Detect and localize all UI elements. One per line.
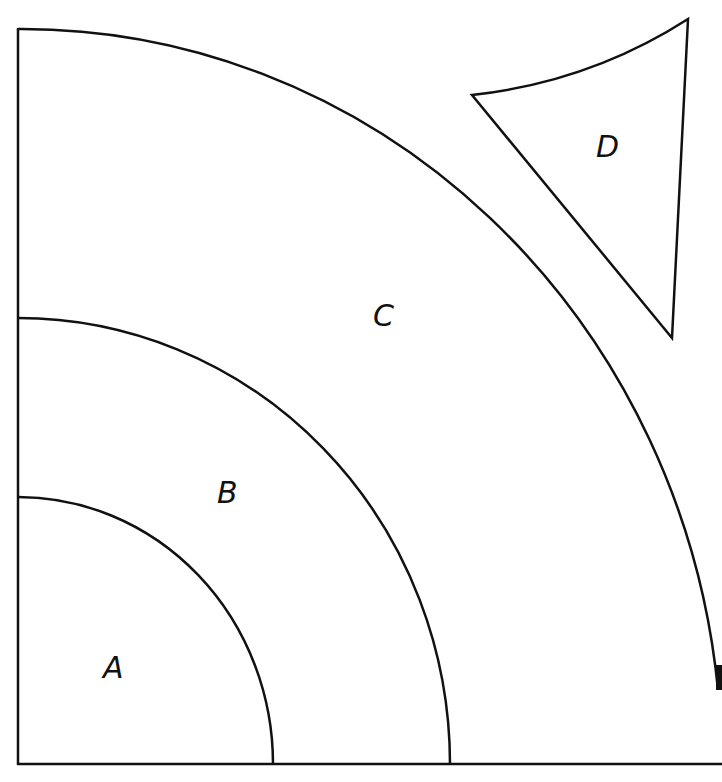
label-b: B [217, 475, 238, 510]
arc-a [18, 497, 273, 764]
edge-mark [716, 665, 722, 690]
region-d-shape [472, 19, 688, 338]
label-d: D [596, 129, 619, 164]
arc-b [18, 318, 450, 764]
label-a: A [101, 650, 124, 685]
label-c: C [373, 298, 394, 333]
quarter-circle-diagram: A B C D [0, 0, 722, 782]
